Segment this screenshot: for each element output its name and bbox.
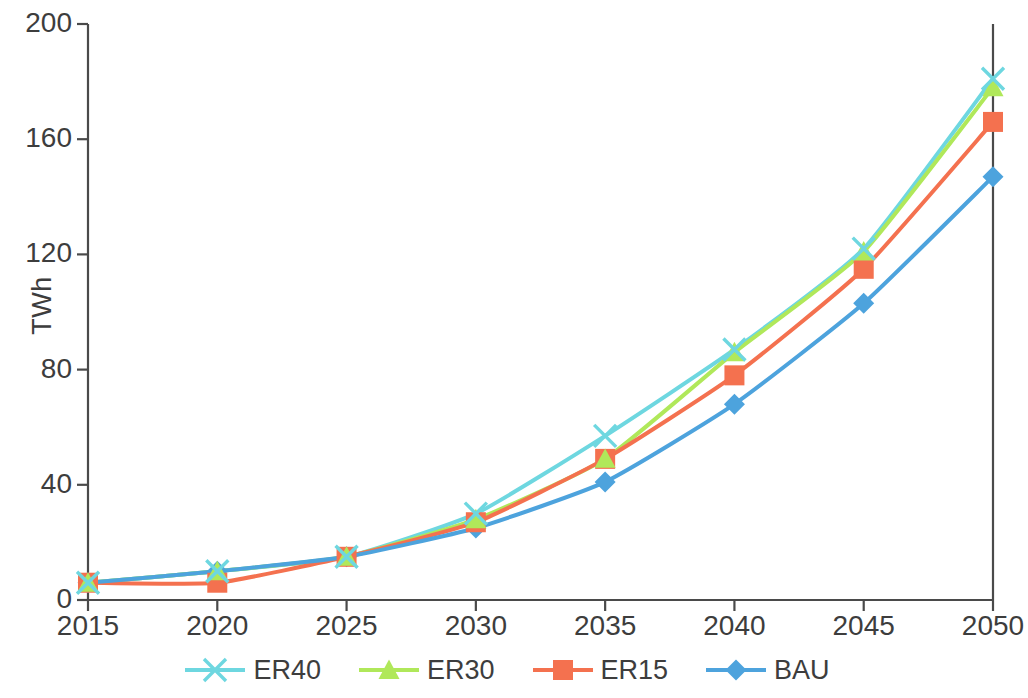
series-er15 bbox=[88, 122, 993, 584]
legend-item-er30[interactable]: ER30 bbox=[357, 655, 495, 685]
legend-label: BAU bbox=[774, 657, 830, 684]
legend-label: ER30 bbox=[427, 657, 495, 684]
data-series bbox=[77, 68, 1004, 594]
legend-label: ER40 bbox=[253, 657, 321, 684]
square-marker bbox=[854, 259, 874, 279]
diamond-marker bbox=[726, 660, 747, 681]
series-markers-er30 bbox=[78, 77, 1004, 592]
axes bbox=[77, 24, 993, 611]
series-line bbox=[88, 122, 993, 584]
diamond-marker bbox=[595, 471, 616, 492]
chart-legend: ER40ER30ER15BAU bbox=[0, 655, 1013, 685]
square-marker bbox=[531, 655, 595, 685]
series-markers-bau bbox=[78, 166, 1004, 593]
diamond-marker bbox=[704, 655, 768, 685]
square-marker bbox=[553, 660, 573, 680]
series-markers-er40 bbox=[77, 68, 1004, 594]
x-marker bbox=[183, 655, 247, 685]
square-marker bbox=[724, 365, 744, 385]
legend-item-er40[interactable]: ER40 bbox=[183, 655, 321, 685]
triangle-marker bbox=[357, 655, 421, 685]
legend-label: ER15 bbox=[601, 657, 669, 684]
legend-item-er15[interactable]: ER15 bbox=[531, 655, 669, 685]
series-bau bbox=[88, 177, 993, 583]
legend-item-bau[interactable]: BAU bbox=[704, 655, 830, 685]
square-marker bbox=[983, 112, 1003, 132]
series-line bbox=[88, 177, 993, 583]
series-markers-er15 bbox=[78, 112, 1003, 593]
x-marker bbox=[594, 425, 616, 447]
